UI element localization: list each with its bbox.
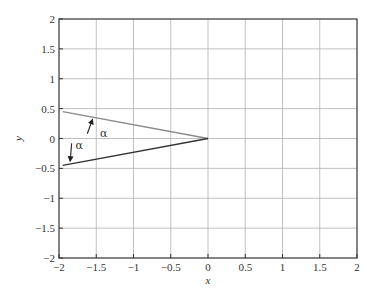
y-axis-label: y — [12, 136, 24, 142]
x-axis-ticks: −2−1.5−1−0.500.511.52 — [53, 254, 360, 273]
y-tick-label: 1 — [50, 73, 56, 85]
y-tick-label: 0 — [50, 133, 56, 145]
x-tick-label: 0.5 — [238, 261, 252, 273]
y-tick-label: 2 — [50, 13, 56, 25]
x-tick-label: −0.5 — [161, 261, 181, 273]
y-tick-label: 0.5 — [41, 103, 55, 115]
y-tick-label: 1.5 — [41, 43, 55, 55]
x-tick-label: 2 — [354, 261, 360, 273]
alpha-label: α — [75, 139, 83, 152]
alpha-label: α — [100, 127, 108, 140]
y-tick-label: −1 — [43, 192, 55, 204]
x-tick-label: 1 — [280, 261, 286, 273]
chart-canvas: αα −2−1.5−1−0.500.511.52 −2−1.5−1−0.500.… — [0, 0, 378, 298]
x-tick-label: 1.5 — [313, 261, 327, 273]
annotations: αα — [70, 119, 108, 161]
x-tick-label: −1.5 — [86, 261, 106, 273]
x-tick-label: −1 — [128, 261, 140, 273]
y-tick-label: −2 — [43, 252, 55, 264]
x-tick-label: 0 — [205, 261, 211, 273]
angle-arrow-icon — [87, 119, 92, 133]
y-tick-label: −1.5 — [35, 222, 55, 234]
x-axis-label: x — [205, 274, 211, 286]
y-tick-label: −0.5 — [35, 162, 55, 174]
angle-arrow-icon — [70, 143, 71, 161]
line-lower-ray — [63, 139, 208, 166]
line-upper-ray — [63, 112, 208, 139]
